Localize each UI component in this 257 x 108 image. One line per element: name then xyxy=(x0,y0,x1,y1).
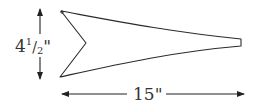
height-unit: " xyxy=(43,36,51,56)
height-whole: 4 xyxy=(15,36,26,56)
height-dimension-label: 41/2" xyxy=(15,36,51,57)
width-dimension-label: 15" xyxy=(129,86,166,103)
fishtail-shape-outline xyxy=(60,11,241,77)
